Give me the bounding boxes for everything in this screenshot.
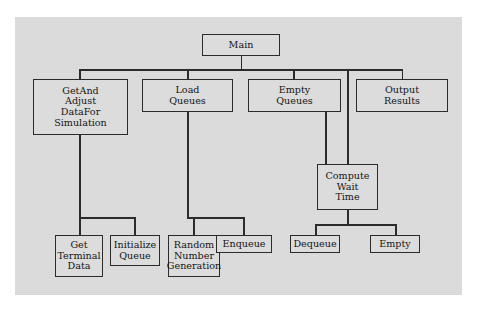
node-empty[interactable]: Empty bbox=[370, 235, 420, 253]
node-getterminal-line-0: Get bbox=[70, 240, 87, 251]
node-getterminal[interactable]: Get Terminal Data bbox=[55, 235, 103, 277]
node-randomnumber-line-0: Random bbox=[174, 240, 214, 251]
node-initqueue[interactable]: Initialize Queue bbox=[110, 235, 160, 266]
edge-main-to-computewait bbox=[347, 69, 349, 164]
node-loadqueues-line-0: Load bbox=[175, 85, 199, 96]
edge-computewait-stem bbox=[347, 210, 349, 224]
edge-main-bus bbox=[79, 69, 403, 71]
edge-getandadjust-to-getterminal bbox=[79, 217, 81, 235]
node-empty-line-0: Empty bbox=[379, 239, 411, 250]
node-randomnumber-line-2: Generation bbox=[167, 261, 221, 272]
edge-getandadjust-to-initqueue bbox=[134, 217, 136, 235]
edge-loadqueues-stem bbox=[187, 112, 189, 217]
node-initqueue-line-0: Initialize bbox=[114, 240, 157, 251]
node-randomnumber[interactable]: Random Number Generation bbox=[168, 235, 220, 277]
edge-main-to-outputresults bbox=[402, 69, 404, 79]
edge-main-stem bbox=[241, 56, 243, 69]
node-getandadjust-line-3: Simulation bbox=[54, 118, 107, 129]
node-main-line-0: Main bbox=[229, 40, 254, 51]
edge-computewait-to-empty bbox=[395, 224, 397, 235]
edge-main-to-emptyqueues bbox=[293, 69, 295, 79]
node-loadqueues-line-1: Queues bbox=[169, 96, 206, 107]
node-getterminal-line-2: Data bbox=[68, 261, 91, 272]
diagram-canvas: Main GetAnd Adjust DataFor Simulation Lo… bbox=[0, 0, 480, 312]
node-emptyqueues-line-0: Empty bbox=[279, 85, 311, 96]
node-emptyqueues-line-1: Queues bbox=[276, 96, 313, 107]
edge-main-to-getandadjust bbox=[79, 69, 81, 79]
edge-loadqueues-to-randomnumber bbox=[193, 217, 195, 235]
node-initqueue-line-1: Queue bbox=[119, 251, 151, 262]
edge-main-to-loadqueues bbox=[187, 69, 189, 79]
edge-emptyqueues-to-computewait bbox=[325, 112, 327, 164]
node-loadqueues[interactable]: Load Queues bbox=[142, 79, 233, 112]
node-outputresults-line-0: Output bbox=[385, 85, 419, 96]
node-emptyqueues[interactable]: Empty Queues bbox=[248, 79, 341, 112]
diagram-plate: Main GetAnd Adjust DataFor Simulation Lo… bbox=[15, 17, 462, 295]
node-outputresults[interactable]: Output Results bbox=[356, 79, 448, 112]
node-enqueue-line-0: Enqueue bbox=[222, 239, 265, 250]
node-computewait-line-2: Time bbox=[335, 192, 359, 203]
node-computewait[interactable]: Compute Wait Time bbox=[317, 164, 378, 210]
edge-computewait-bus bbox=[315, 224, 395, 226]
edge-getandadjust-bus bbox=[79, 217, 134, 219]
edge-getandadjust-stem bbox=[79, 135, 81, 217]
node-dequeue-line-0: Dequeue bbox=[293, 239, 336, 250]
edge-computewait-to-dequeue bbox=[315, 224, 317, 235]
node-getandadjust[interactable]: GetAnd Adjust DataFor Simulation bbox=[33, 79, 128, 135]
node-main[interactable]: Main bbox=[202, 34, 280, 56]
node-outputresults-line-1: Results bbox=[384, 96, 420, 107]
node-dequeue[interactable]: Dequeue bbox=[290, 235, 340, 253]
node-computewait-line-0: Compute bbox=[325, 171, 369, 182]
edge-loadqueues-bus bbox=[187, 217, 243, 219]
node-enqueue[interactable]: Enqueue bbox=[216, 235, 272, 253]
edge-loadqueues-to-enqueue bbox=[243, 217, 245, 235]
